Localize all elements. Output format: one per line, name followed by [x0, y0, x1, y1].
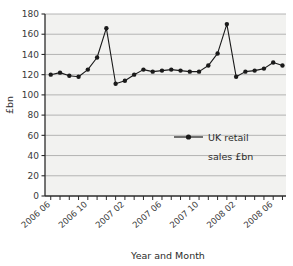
data-point: [197, 69, 201, 73]
data-point: [76, 74, 80, 78]
legend-label-line2: sales £bn: [208, 151, 253, 162]
data-point: [95, 55, 99, 59]
data-point: [113, 82, 117, 86]
data-point: [206, 63, 210, 67]
data-point: [151, 69, 155, 73]
y-tick-label: 80: [28, 110, 40, 120]
data-point: [104, 26, 108, 30]
y-tick-label: 0: [33, 191, 39, 201]
data-point: [234, 74, 238, 78]
y-tick-label: 100: [22, 90, 39, 100]
legend-marker-icon: [186, 134, 191, 139]
retail-sales-line-chart: 020406080100120140160180 2006 062006 102…: [0, 0, 293, 266]
data-point: [188, 69, 192, 73]
data-point: [169, 67, 173, 71]
data-point: [49, 72, 53, 76]
chart-canvas: 020406080100120140160180 2006 062006 102…: [0, 0, 293, 266]
y-tick-label: 40: [28, 151, 40, 161]
data-point: [160, 68, 164, 72]
data-point: [132, 72, 136, 76]
y-axis-title: £bn: [4, 96, 15, 114]
data-point: [178, 68, 182, 72]
y-axis-ticks: 020406080100120140160180: [22, 9, 45, 201]
data-point: [123, 79, 127, 83]
x-tick-label: 2007 10: [168, 199, 201, 230]
x-tick-label: 2006 10: [56, 199, 89, 230]
x-tick-label: 2008 02: [205, 199, 238, 230]
legend-label-line1: UK retail: [208, 132, 249, 143]
data-point: [86, 67, 90, 71]
data-point: [252, 68, 256, 72]
data-point: [141, 67, 145, 71]
y-tick-label: 140: [22, 50, 39, 60]
y-tick-label: 120: [22, 70, 39, 80]
data-point: [67, 73, 71, 77]
x-tick-label: 2007 02: [93, 199, 126, 230]
data-point: [243, 69, 247, 73]
data-point: [280, 63, 284, 67]
data-point: [215, 51, 219, 55]
x-tick-label: 2007 06: [130, 199, 163, 230]
x-tick-label: 2006 06: [19, 199, 52, 230]
y-tick-label: 60: [28, 131, 40, 141]
y-tick-label: 20: [28, 171, 40, 181]
y-tick-label: 180: [22, 9, 39, 19]
plot-area-background: [45, 14, 286, 196]
data-point: [225, 22, 229, 26]
x-axis-title: Year and Month: [130, 250, 205, 261]
x-axis-tick-labels: 2006 062006 102007 022007 062007 102008 …: [19, 199, 274, 230]
data-point: [271, 60, 275, 64]
data-point: [262, 66, 266, 70]
x-tick-label: 2008 06: [242, 199, 275, 230]
data-point: [58, 70, 62, 74]
y-tick-label: 160: [22, 29, 39, 39]
